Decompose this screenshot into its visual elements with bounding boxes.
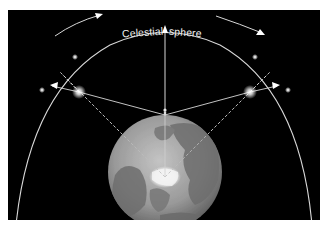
observer-figure: [163, 108, 166, 115]
projection-arrowhead-left-icon: [50, 82, 58, 89]
projection-arrowhead-right-icon: [272, 82, 280, 89]
bright-star-left: [72, 85, 86, 99]
arrowhead-right-icon: [256, 29, 265, 35]
projected-star-left-upper: [72, 54, 78, 60]
projected-star-left-lower: [39, 87, 45, 93]
sightline-right: [165, 92, 250, 115]
celestial-sphere-diagram: [0, 0, 329, 231]
motion-arrow-right: [216, 16, 262, 33]
projected-star-right-lower: [285, 87, 291, 93]
projected-star-right-upper: [252, 54, 258, 60]
sightline-left: [79, 92, 165, 115]
landmass-bottom: [160, 212, 210, 231]
bright-star-right: [243, 85, 257, 99]
motion-arrow-left: [55, 15, 100, 36]
sphere-label: sphere: [169, 25, 202, 39]
arrowhead-left-icon: [95, 13, 103, 19]
